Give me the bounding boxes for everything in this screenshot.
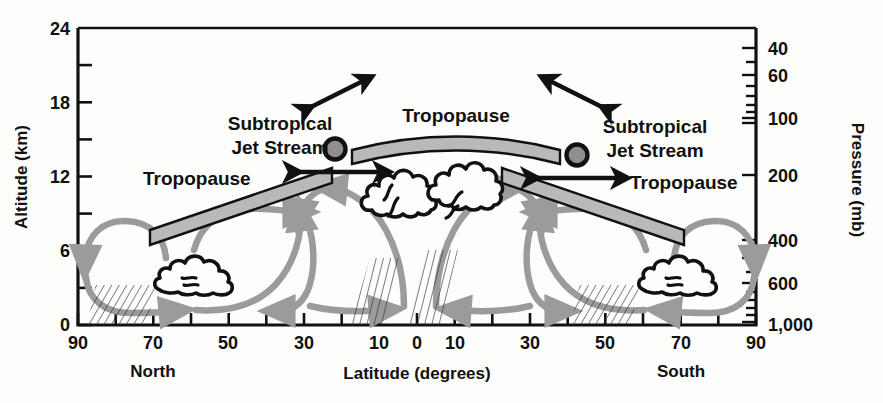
right-tick-label: 600 — [768, 274, 798, 294]
bottom-axis-title: Latitude (degrees) — [343, 364, 490, 383]
left-tick-label: 18 — [50, 93, 70, 113]
hemisphere-label-south: South — [657, 362, 705, 381]
hemisphere-label-north: North — [130, 362, 175, 381]
rain-shaft-polar-south — [571, 285, 640, 325]
jet-stream-core-south — [567, 145, 588, 166]
annotation-tropopause-left: Tropopause — [143, 168, 251, 189]
bottom-tick-label: 50 — [595, 333, 615, 353]
right-tick-label: 40 — [768, 39, 788, 59]
right-tick-label: 1,000 — [768, 315, 813, 335]
annotation-jet-south-line1: Subtropical — [603, 116, 708, 137]
annotation-jet-south-line2: Jet Stream — [606, 140, 703, 161]
bottom-tick-label: 10 — [445, 333, 465, 353]
bottom-tick-label: 90 — [68, 333, 88, 353]
left-tick-label: 0 — [60, 315, 70, 335]
annotation-tropopause-right: Tropopause — [630, 172, 738, 193]
left-tick-label: 12 — [50, 167, 70, 187]
figure-canvas: 24 18 12 6 0 Altitude (km) 40 60 100 200… — [0, 0, 883, 403]
annotation-jet-north-line1: Subtropical — [228, 113, 333, 134]
bottom-tick-label: 50 — [218, 333, 238, 353]
right-tick-label: 100 — [768, 109, 798, 129]
circulation-diagram: 24 18 12 6 0 Altitude (km) 40 60 100 200… — [0, 0, 883, 403]
right-tick-label: 200 — [768, 166, 798, 186]
right-tick-label: 60 — [768, 66, 788, 86]
bottom-tick-label: 70 — [143, 333, 163, 353]
left-tick-label: 24 — [50, 19, 70, 39]
right-tick-label: 400 — [768, 231, 798, 251]
annotation-tropopause-center: Tropopause — [402, 105, 510, 126]
rain-shaft-polar-north — [87, 285, 156, 325]
bottom-tick-label: 70 — [671, 333, 691, 353]
bottom-tick-label: 10 — [369, 333, 389, 353]
bottom-tick-label: 90 — [746, 333, 766, 353]
left-tick-label: 6 — [60, 241, 70, 261]
bottom-tick-label: 30 — [294, 333, 314, 353]
left-axis-title: Altitude (km) — [12, 125, 31, 229]
bottom-tick-label: 30 — [520, 333, 540, 353]
bottom-tick-label: 0 — [412, 333, 422, 353]
annotation-jet-north-line2: Jet Stream — [231, 137, 328, 158]
right-axis-title: Pressure (mb) — [848, 123, 867, 237]
